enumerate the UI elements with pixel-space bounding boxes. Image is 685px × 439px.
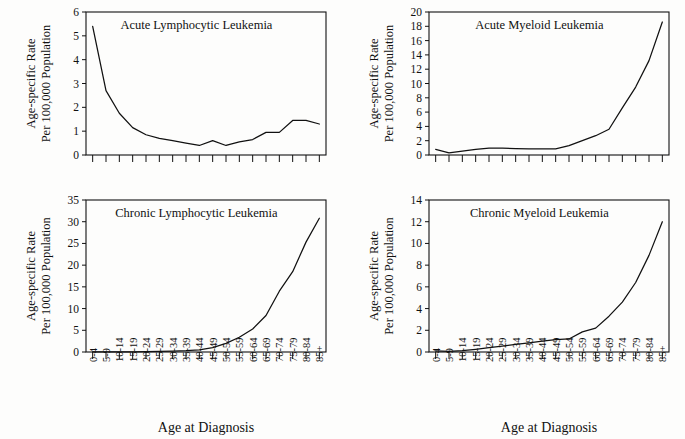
y-axis-label-line1: Age-specific Rate (24, 38, 38, 128)
y-axis-tick-label: 20 (411, 6, 423, 18)
data-series-line (93, 26, 320, 145)
x-axis-tick-label: 80-84 (301, 337, 312, 362)
y-axis-tick-label: 15 (68, 281, 80, 293)
y-axis-tick-label: 5 (73, 30, 79, 42)
y-axis-tick-label: 0 (416, 346, 422, 358)
y-axis-tick-label: 4 (73, 54, 79, 66)
x-axis-label: Age at Diagnosis (501, 420, 597, 435)
x-axis-tick-label: 60-64 (248, 337, 259, 362)
chart-title: Chronic Lymphocytic Leukemia (115, 206, 278, 220)
y-axis-tick-label: 6 (73, 6, 79, 18)
x-axis-tick-label-text: 65-69 (604, 338, 615, 363)
x-axis-tick-label-text: 30-34 (511, 337, 522, 362)
data-series-line (436, 222, 663, 352)
y-axis-label-line2: Per 100,000 Population (382, 24, 396, 142)
x-axis-tick-label-text: 20-24 (141, 337, 152, 362)
x-axis-tick-label: 85+ (657, 346, 668, 363)
x-axis-tick-label-text: 5-9 (444, 348, 455, 362)
chart-panel-chronic-myeloid: 02468101214Age-specific RatePer 100,000 … (343, 186, 685, 439)
y-axis-tick-label: 3 (73, 78, 79, 90)
y-axis-label-line1: Age-specific Rate (24, 231, 38, 321)
x-axis-tick-label-text: 60-64 (248, 337, 259, 362)
x-axis-tick-label: 5-9 (101, 348, 112, 362)
chart-svg: 0123456Age-specific RatePer 100,000 Popu… (0, 0, 343, 192)
y-axis-label-line2: Per 100,000 Population (39, 216, 53, 334)
y-axis-label-line2: Per 100,000 Population (39, 24, 53, 142)
x-axis-tick-label-text: 15-19 (128, 338, 139, 363)
x-axis-tick-label: 45-49 (208, 338, 219, 363)
x-axis-tick-label: 80-84 (644, 337, 655, 362)
x-axis-tick-label-text: 40-44 (537, 337, 548, 362)
x-axis-tick-label: 75-79 (631, 338, 642, 363)
x-axis-tick-label-text: 45-49 (551, 338, 562, 363)
x-axis-tick-label-text: 15-19 (471, 338, 482, 363)
chart-svg: 02468101214161820Age-specific RatePer 10… (343, 0, 685, 192)
x-axis-tick-label-text: 25-29 (154, 338, 165, 363)
x-axis-tick-label-text: 40-44 (194, 337, 205, 362)
x-axis-tick-label: 55-59 (234, 338, 245, 363)
x-axis-tick-label: 45-49 (551, 338, 562, 363)
x-axis-tick-label-text: 75-79 (631, 338, 642, 363)
y-axis-label: Age-specific RatePer 100,000 Population (24, 216, 53, 334)
y-axis-tick-label: 0 (416, 149, 422, 161)
y-axis-tick-label: 0 (73, 149, 79, 161)
x-axis-tick-label: 40-44 (194, 337, 205, 362)
y-axis-tick-label: 6 (416, 281, 422, 293)
x-axis-tick-label: 40-44 (537, 337, 548, 362)
x-axis-label: Age at Diagnosis (158, 420, 254, 435)
chart-title: Acute Myeloid Leukemia (475, 18, 604, 32)
x-axis-tick-label-text: 0-4 (88, 347, 99, 362)
x-axis-tick-label-text: 25-29 (497, 338, 508, 363)
y-axis-label-line1: Age-specific Rate (367, 231, 381, 321)
x-axis-tick-label: 50-54 (221, 337, 232, 362)
x-axis-tick-label-text: 65-69 (261, 338, 272, 363)
chart-title: Acute Lymphocytic Leukemia (120, 18, 272, 32)
y-axis-label: Age-specific RatePer 100,000 Population (367, 24, 396, 142)
y-axis-tick-label: 12 (411, 216, 423, 228)
x-axis-tick-label-text: 85+ (657, 346, 668, 363)
y-axis-label-line2: Per 100,000 Population (382, 216, 396, 334)
y-axis-label: Age-specific RatePer 100,000 Population (24, 24, 53, 142)
x-axis-tick-label-text: 75-79 (288, 338, 299, 363)
x-axis-tick-label: 85+ (314, 346, 325, 363)
x-axis-tick-label-text: 85+ (314, 346, 325, 363)
y-axis-tick-label: 1 (73, 125, 79, 137)
x-axis-tick-label: 65-69 (604, 338, 615, 363)
chart-title: Chronic Myeloid Leukemia (470, 206, 609, 220)
chart-panel-acute-myeloid: 02468101214161820Age-specific RatePer 10… (343, 0, 685, 192)
x-axis-tick-label-text: 30-34 (168, 337, 179, 362)
x-axis-tick-label: 30-34 (511, 337, 522, 362)
chart-panel-chronic-lymphocytic: 05101520253035Age-specific RatePer 100,0… (0, 186, 343, 439)
y-axis-tick-label: 6 (416, 106, 422, 118)
chart-svg: 02468101214Age-specific RatePer 100,000 … (343, 186, 685, 439)
data-series-line (93, 218, 320, 352)
y-axis-tick-label: 20 (68, 259, 80, 271)
x-axis-tick-label: 65-69 (261, 338, 272, 363)
x-axis-tick-label: 50-54 (564, 337, 575, 362)
x-axis-tick-label: 55-59 (577, 338, 588, 363)
x-axis-tick-label-text: 10-14 (457, 337, 468, 362)
y-axis-tick-label: 10 (411, 78, 423, 90)
x-axis-tick-label: 0-4 (431, 347, 442, 362)
x-axis-tick-label: 75-79 (288, 338, 299, 363)
x-axis-tick-label-text: 5-9 (101, 348, 112, 362)
y-axis-tick-label: 14 (411, 49, 423, 61)
x-axis-tick-label-text: 35-39 (181, 338, 192, 363)
x-axis-tick-label-text: 50-54 (564, 337, 575, 362)
x-axis-tick-label: 0-4 (88, 347, 99, 362)
y-axis-tick-label: 0 (73, 346, 79, 358)
x-axis-tick-label: 35-39 (181, 338, 192, 363)
x-axis-tick-label-text: 70-74 (274, 337, 285, 362)
x-axis-tick-label: 70-74 (617, 337, 628, 362)
x-axis-tick-label: 5-9 (444, 348, 455, 362)
y-axis-tick-label: 2 (416, 324, 422, 336)
y-axis-tick-label: 4 (416, 303, 422, 315)
y-axis-tick-label: 30 (68, 216, 80, 228)
y-axis-tick-label: 10 (411, 237, 423, 249)
x-axis-tick-label: 15-19 (471, 338, 482, 363)
y-axis-tick-label: 14 (411, 194, 423, 206)
y-axis-tick-label: 18 (411, 20, 423, 32)
x-axis-tick-label: 15-19 (128, 338, 139, 363)
y-axis-tick-label: 2 (73, 101, 79, 113)
y-axis-tick-label: 5 (73, 324, 79, 336)
